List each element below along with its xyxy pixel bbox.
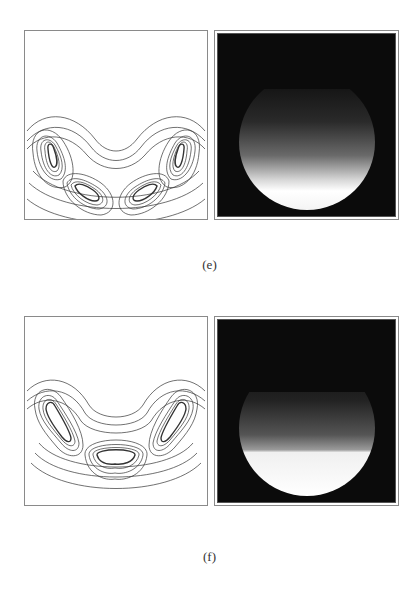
density-map-e — [214, 30, 399, 220]
caption-e: (e) — [0, 257, 419, 273]
contour-plot-e — [24, 30, 208, 220]
contour-lines-f — [25, 317, 207, 505]
contour-plot-f — [24, 316, 208, 506]
density-map-f — [214, 316, 399, 506]
contour-lines-e — [25, 31, 207, 219]
density-disk-e — [218, 34, 396, 217]
density-disk-f — [218, 320, 396, 503]
caption-f: (f) — [0, 549, 419, 565]
